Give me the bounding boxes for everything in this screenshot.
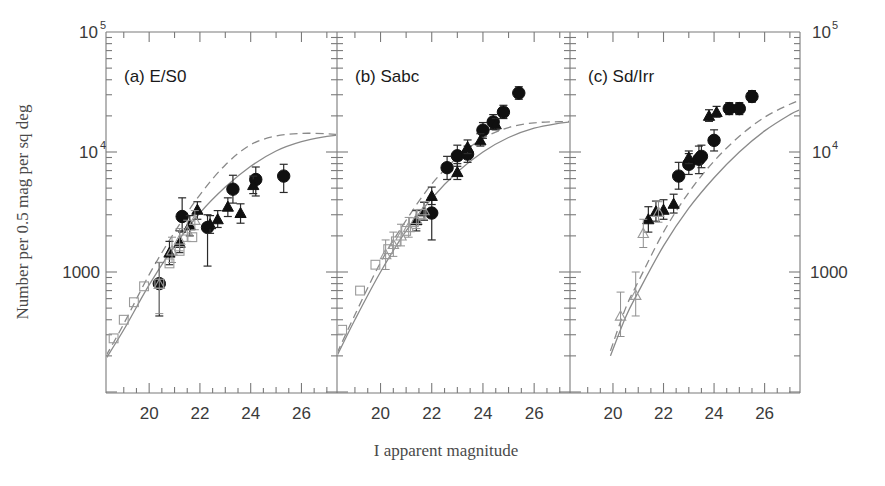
y-tick-label-left-1e4: 10 xyxy=(79,143,98,162)
panel-content-a xyxy=(106,133,337,358)
curve-model-dashed-c xyxy=(610,100,800,351)
data-point-filled-circle xyxy=(176,210,188,222)
panel-label-c: (c) Sd/Irr xyxy=(588,67,654,86)
data-point-open-square xyxy=(356,286,365,295)
x-tick-label-b-26: 26 xyxy=(525,404,544,423)
x-tick-label-a-24: 24 xyxy=(241,404,260,423)
x-tick-label-a-20: 20 xyxy=(140,404,159,423)
data-point-filled-circle xyxy=(227,183,239,195)
y-tick-label-right-1e5: 10 xyxy=(812,23,831,42)
y-tick-label-left-exp-5: 5 xyxy=(100,19,106,31)
data-point-filled-circle xyxy=(733,102,745,114)
x-tick-label-a-22: 22 xyxy=(190,404,209,423)
x-axis-title: I apparent magnitude xyxy=(374,441,518,460)
data-point-filled-circle xyxy=(672,170,684,182)
y-tick-label-right-1000: 1000 xyxy=(810,263,848,282)
y-tick-label-right-exp-5: 5 xyxy=(832,19,838,31)
panel-label-b: (b) Sabc xyxy=(355,67,420,86)
data-point-filled-circle xyxy=(441,161,453,173)
data-point-open-square xyxy=(371,260,380,269)
x-tick-label-a-26: 26 xyxy=(292,404,311,423)
data-point-filled-triangle xyxy=(235,207,246,217)
y-tick-label-left-1e5: 10 xyxy=(79,23,98,42)
data-point-filled-circle xyxy=(695,150,707,162)
x-tick-label-b-20: 20 xyxy=(371,404,390,423)
plot-svg: 2022242620222426202224261051041000105104… xyxy=(0,0,885,486)
figure-container: 2022242620222426202224261051041000105104… xyxy=(0,0,885,486)
data-point-filled-circle xyxy=(708,134,720,146)
panel-content-c xyxy=(610,90,800,356)
panel-content-b xyxy=(337,87,570,356)
data-point-filled-circle xyxy=(746,90,758,102)
y-axis-title: Number per 0.5 mag per sq deg xyxy=(13,104,32,319)
x-tick-label-c-22: 22 xyxy=(654,404,673,423)
y-tick-label-left-1000: 1000 xyxy=(62,263,100,282)
curve-model-dashed-a xyxy=(106,133,337,356)
curve-model-solid-a xyxy=(106,135,337,358)
x-tick-label-c-20: 20 xyxy=(604,404,623,423)
x-tick-label-c-26: 26 xyxy=(755,404,774,423)
data-point-filled-circle xyxy=(497,106,509,118)
data-point-filled-circle xyxy=(513,87,525,99)
data-point-filled-triangle xyxy=(711,107,722,117)
x-tick-label-b-24: 24 xyxy=(473,404,492,423)
curve-model-solid-c xyxy=(610,110,800,356)
y-tick-label-left-exp-4: 4 xyxy=(100,139,106,151)
data-point-filled-circle xyxy=(277,170,289,182)
x-tick-label-b-22: 22 xyxy=(422,404,441,423)
data-point-filled-triangle xyxy=(192,204,203,214)
x-tick-label-c-24: 24 xyxy=(705,404,724,423)
y-tick-label-right-1e4: 10 xyxy=(812,143,831,162)
data-point-open-square xyxy=(338,325,347,334)
data-point-filled-circle xyxy=(477,124,489,136)
data-point-filled-triangle xyxy=(426,190,437,200)
data-point-filled-triangle xyxy=(668,198,679,208)
y-tick-label-right-exp-4: 4 xyxy=(832,139,838,151)
panel-label-a: (a) E/S0 xyxy=(124,67,186,86)
